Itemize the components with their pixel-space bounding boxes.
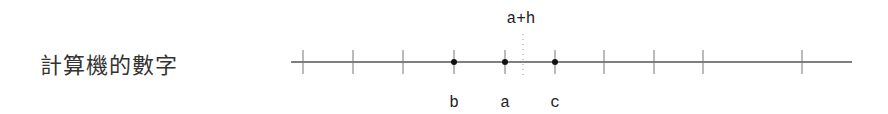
point-label-a: a	[500, 94, 510, 112]
point-c	[552, 59, 558, 65]
point-b	[451, 59, 457, 65]
marker-label: a+h	[507, 10, 536, 28]
number-line: baca+h	[0, 0, 888, 114]
point-label-c: c	[550, 94, 560, 112]
point-label-b: b	[449, 94, 459, 112]
point-a	[502, 59, 508, 65]
